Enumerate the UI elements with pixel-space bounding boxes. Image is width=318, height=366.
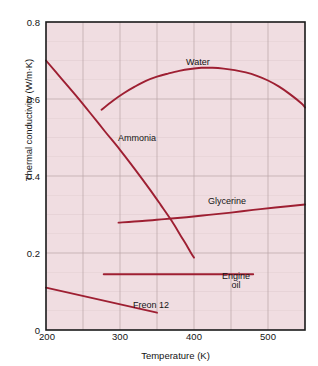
y-axis-title: Thermal conductivity (W/m·K) bbox=[23, 59, 34, 181]
series-label-freon12: Freon 12 bbox=[133, 300, 169, 310]
y-tick-label-0.2: 0.2 bbox=[14, 248, 40, 259]
thermal-conductivity-chart: 0.8 0.6 0.4 0.2 0 200 300 400 500 Therma… bbox=[0, 0, 318, 366]
series-label-glycerine: Glycerine bbox=[208, 196, 246, 206]
x-tick-label-500: 500 bbox=[248, 331, 288, 342]
x-tick-label-400: 400 bbox=[174, 331, 214, 342]
series-label-water: Water bbox=[186, 57, 210, 67]
chart-canvas bbox=[0, 0, 318, 366]
series-label-engine-oil-line2: oil bbox=[214, 280, 258, 290]
x-tick-label-200: 200 bbox=[27, 331, 67, 342]
x-tick-label-300: 300 bbox=[100, 331, 140, 342]
series-label-ammonia: Ammonia bbox=[118, 133, 156, 143]
y-axis-title-container: Thermal conductivity (W/m·K) bbox=[18, 30, 34, 210]
y-tick-label-0.8: 0.8 bbox=[14, 17, 40, 28]
x-axis-title: Temperature (K) bbox=[141, 350, 210, 361]
x-axis-title-container: Temperature (K) bbox=[46, 345, 305, 363]
